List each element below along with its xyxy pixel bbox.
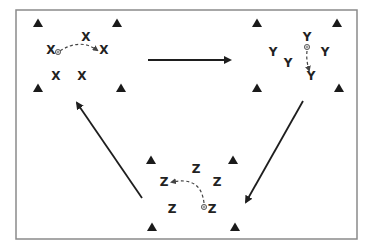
player-marker: Y bbox=[320, 45, 330, 59]
player-marker: Y bbox=[268, 45, 278, 59]
player-marker: Z bbox=[192, 162, 201, 176]
cone-icon bbox=[252, 19, 262, 28]
rotation-arrow-z-to-x bbox=[77, 103, 142, 198]
player-groups: XXXXXYYYYYZZZZZ bbox=[33, 19, 344, 232]
player-marker: Z bbox=[168, 202, 177, 216]
player-marker: Y bbox=[283, 56, 293, 70]
ball-center bbox=[57, 51, 59, 53]
player-marker: X bbox=[51, 69, 61, 83]
cone-icon bbox=[332, 19, 342, 28]
player-marker: Z bbox=[160, 175, 169, 189]
pass-path bbox=[60, 44, 97, 51]
player-marker: Y bbox=[302, 30, 312, 44]
pass-path bbox=[172, 181, 204, 203]
player-marker: X bbox=[81, 30, 91, 44]
player-marker: X bbox=[77, 69, 87, 83]
cone-icon bbox=[112, 19, 122, 28]
cone-icon bbox=[33, 84, 43, 93]
player-marker: X bbox=[46, 43, 56, 57]
player-marker: Z bbox=[213, 175, 222, 189]
player-marker: X bbox=[99, 43, 109, 57]
cone-icon bbox=[116, 84, 126, 93]
drill-diagram: XXXXXYYYYYZZZZZ bbox=[0, 0, 368, 246]
cone-icon bbox=[230, 223, 240, 232]
pass-path bbox=[307, 51, 309, 70]
rotation-arrows bbox=[77, 60, 303, 202]
cone-icon bbox=[228, 156, 238, 165]
cone-icon bbox=[33, 19, 43, 28]
cone-icon bbox=[147, 223, 157, 232]
group-z: ZZZZZ bbox=[146, 156, 240, 232]
cone-icon bbox=[334, 84, 344, 93]
cone-icon bbox=[252, 84, 262, 93]
rotation-arrow-y-to-z bbox=[246, 101, 303, 202]
group-x: XXXXX bbox=[33, 19, 126, 93]
cone-icon bbox=[146, 156, 156, 165]
player-marker: Y bbox=[306, 69, 316, 83]
player-marker: Z bbox=[208, 202, 217, 216]
ball-center bbox=[203, 206, 205, 208]
group-y: YYYYY bbox=[252, 19, 344, 93]
ball-center bbox=[306, 46, 308, 48]
